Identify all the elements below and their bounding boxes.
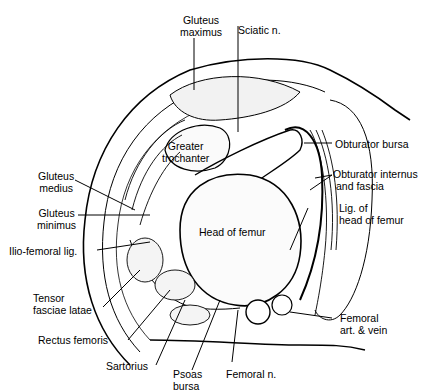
label-line: Gluteus (37, 207, 76, 219)
label-femoral-n: Femoral n. (226, 368, 276, 380)
label-line: Obturator internus (333, 168, 418, 180)
label-line: Psoas (173, 368, 202, 380)
label-line: Gluteus (38, 170, 74, 182)
label-gluteus-maximus: Gluteus maximus (180, 14, 222, 38)
label-line: fasciae latae (33, 304, 92, 316)
label-line: Femoral (340, 312, 387, 324)
label-gluteus-medius: Gluteus medius (38, 170, 74, 194)
label-line: Gluteus (180, 14, 222, 26)
femoral-vein (272, 295, 292, 315)
label-line: Head of femur (199, 226, 266, 238)
rectus-femoris-muscle (155, 270, 195, 300)
anterior-skin-contour (150, 340, 365, 350)
label-line: head of femur (339, 214, 404, 226)
label-sartorius: Sartorius (106, 360, 148, 372)
label-greater-trochanter: Greater trochanter (162, 140, 209, 164)
label-line: Lig. of (339, 202, 404, 214)
label-line: art. & vein (340, 324, 387, 336)
label-line: Rectus femoris (38, 334, 108, 346)
label-line: Femoral n. (226, 368, 276, 380)
sartorius-muscle (170, 305, 210, 325)
label-line: Ilio-femoral lig. (9, 245, 77, 257)
label-line: Sartorius (106, 360, 148, 372)
label-line: medius (38, 182, 74, 194)
gluteus-maximus-muscle (170, 77, 300, 121)
label-gluteus-minimus: Gluteus minimus (37, 207, 76, 231)
femoral-artery (246, 300, 270, 324)
label-line: trochanter (162, 152, 209, 164)
label-ilio-femoral-lig: Ilio-femoral lig. (9, 245, 77, 257)
label-obturator-internus: Obturator internus and fascia (333, 168, 418, 192)
label-rectus-femoris: Rectus femoris (38, 334, 108, 346)
label-line: and fascia (333, 180, 418, 192)
label-line: Greater (162, 140, 209, 152)
label-psoas-bursa: Psoas bursa (173, 368, 202, 392)
label-line: Tensor (33, 292, 92, 304)
obturator-internus-muscle (310, 130, 337, 315)
label-line: Obturator bursa (335, 138, 409, 150)
label-line: minimus (37, 219, 76, 231)
femoral-head (180, 174, 301, 306)
label-line: Sciatic n. (238, 24, 281, 36)
label-tensor-fasciae-latae: Tensor fasciae latae (33, 292, 92, 316)
label-line: maximus (180, 26, 222, 38)
label-obturator-bursa: Obturator bursa (335, 138, 409, 150)
label-line: bursa (173, 380, 202, 392)
label-lig-head-femur: Lig. of head of femur (339, 202, 404, 226)
label-sciatic-n: Sciatic n. (238, 24, 281, 36)
label-head-of-femur: Head of femur (199, 226, 266, 238)
label-femoral-art-vein: Femoral art. & vein (340, 312, 387, 336)
